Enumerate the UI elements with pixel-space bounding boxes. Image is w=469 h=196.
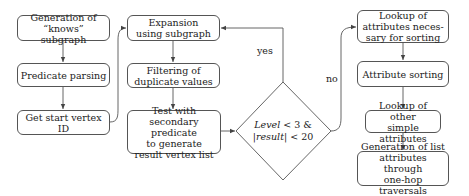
node-predicate-parsing: Predicate parsing — [17, 63, 110, 87]
node-text: “knows” subgraph — [20, 23, 107, 45]
node-get-start-vertex: Get start vertex ID — [17, 110, 110, 135]
node-text: attributes neces- — [362, 21, 443, 32]
node-text: Get start vertex ID — [20, 112, 107, 134]
edge-label-no: no — [326, 73, 338, 84]
node-text: result vertex list — [130, 149, 218, 160]
flowchart: Generation of “knows” subgraph Predicate… — [0, 0, 469, 196]
node-generation-knows-subgraph: Generation of “knows” subgraph — [17, 15, 110, 41]
node-text: Predicate parsing — [21, 70, 107, 81]
edge-label-yes: yes — [257, 45, 273, 56]
node-text: Filtering of — [134, 65, 213, 76]
node-lookup-sort-attributes: Lookup of attributes neces- sary for sor… — [357, 10, 449, 43]
node-filtering-duplicates: Filtering of duplicate values — [127, 63, 220, 88]
node-text: sary for sorting — [362, 32, 443, 43]
node-text: using subgraph — [136, 28, 211, 39]
node-text: Generation of — [20, 12, 107, 23]
node-text: Attribute sorting — [363, 69, 444, 80]
var-result: result — [256, 131, 284, 142]
node-text: Lookup of other — [368, 100, 438, 122]
node-test-secondary-predicate: Test with secondary predicate to generat… — [127, 110, 221, 154]
edge-yes-loop — [221, 28, 283, 82]
node-attribute-sorting: Attribute sorting — [357, 61, 449, 87]
node-text: Test with — [130, 105, 218, 116]
node-text: Generation of list — [360, 141, 446, 152]
edge-start-to-expansion — [110, 28, 126, 122]
decision-condition: Level < 3 & |result| < 20 — [238, 119, 328, 143]
node-generation-list-attributes: Generation of list attributes through on… — [357, 151, 449, 186]
condition-text: | < 20 — [284, 131, 313, 142]
node-text: attributes through — [360, 152, 446, 174]
node-text: to generate — [130, 138, 218, 149]
condition-text: < 3 & — [280, 119, 312, 130]
var-level: Level — [254, 119, 280, 130]
node-text: duplicate values — [134, 76, 213, 87]
node-lookup-other-attributes: Lookup of other simple attributes — [365, 110, 441, 133]
node-text: secondary predicate — [130, 116, 218, 138]
node-text: one-hop traversals — [360, 174, 446, 196]
node-text: Expansion — [136, 17, 211, 28]
node-text: Lookup of — [362, 10, 443, 21]
node-expansion: Expansion using subgraph — [127, 15, 220, 41]
